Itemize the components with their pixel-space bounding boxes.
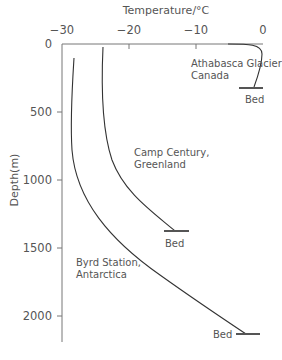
x-tick-label: −20	[117, 23, 141, 37]
y-tick-label: 0	[45, 37, 52, 51]
athabasca-label: Athabasca Glacier,	[191, 58, 282, 69]
camp-century-label: Camp Century,	[134, 147, 209, 158]
camp-century-curve	[102, 47, 175, 231]
y-tick-label: 1500	[23, 241, 52, 255]
bed-label: Bed	[245, 94, 264, 105]
bed-label: Bed	[213, 329, 232, 340]
x-axis-label: Temperature/°C	[122, 4, 210, 17]
y-axis-label: Depth(m)	[8, 154, 21, 207]
y-tick-label: 500	[30, 105, 52, 119]
chart: Temperature/°C −30 −20 −10 0 0 500 1000 …	[0, 0, 282, 360]
camp-century-label: Greenland	[134, 159, 186, 170]
x-tick-label: −30	[50, 23, 74, 37]
byrd-label: Antarctica	[76, 269, 127, 280]
byrd-curve	[71, 58, 246, 334]
athabasca-label: Canada	[191, 70, 229, 81]
y-tick-label: 1000	[23, 173, 52, 187]
x-tick-label: 0	[259, 23, 266, 37]
x-tick-label: −10	[184, 23, 208, 37]
y-tick-label: 2000	[23, 309, 52, 323]
bed-label: Bed	[165, 238, 184, 249]
byrd-label: Byrd Station,	[76, 257, 141, 268]
